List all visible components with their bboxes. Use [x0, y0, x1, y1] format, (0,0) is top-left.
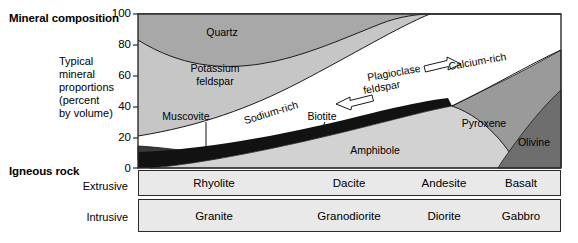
table-row-extrusive: Rhyolite Dacite Andesite Basalt	[138, 170, 561, 196]
rock-cell-rhyolite: Rhyolite	[139, 171, 289, 195]
label-potassium: Potassium	[190, 62, 239, 74]
label-feldspar-k: feldspar	[196, 75, 234, 87]
label-quartz: Quartz	[206, 26, 238, 38]
label-amphibole: Amphibole	[350, 144, 400, 156]
rock-cell-granodiorite: Granodiorite	[287, 200, 411, 231]
label-pyroxene: Pyroxene	[462, 117, 507, 129]
label-biotite: Biotite	[307, 110, 336, 122]
rock-cell-diorite: Diorite	[404, 200, 484, 231]
label-muscovite: Muscovite	[162, 110, 209, 122]
table-row-intrusive: Granite Granodiorite Diorite Gabbro	[138, 199, 561, 232]
rock-cell-granite: Granite	[139, 200, 289, 231]
rock-cell-basalt: Basalt	[481, 171, 561, 195]
label-olivine: Olivine	[518, 136, 550, 148]
rock-cell-dacite: Dacite	[289, 171, 409, 195]
figure-root: Mineral composition Typical mineral prop…	[0, 0, 578, 243]
rock-cell-gabbro: Gabbro	[481, 200, 561, 231]
rock-cell-andesite: Andesite	[404, 171, 484, 195]
